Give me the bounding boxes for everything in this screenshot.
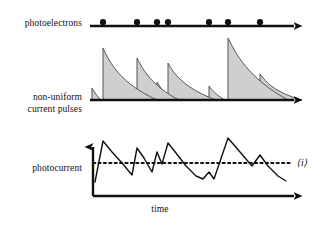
- figure-canvas: [0, 0, 322, 225]
- photoelectron-dot: [165, 19, 171, 25]
- panel-current-pulses: [90, 38, 302, 100]
- photocurrent-waveform: [95, 138, 286, 182]
- current-pulse-shoulder: [92, 88, 101, 100]
- photoelectron-dot: [100, 19, 106, 25]
- figure-photocurrent-shot-noise: photoelectrons non-uniform current pulse…: [0, 0, 322, 225]
- photoelectron-dot: [225, 19, 231, 25]
- panel-photocurrent: [93, 138, 294, 196]
- photoelectron-dot: [257, 19, 263, 25]
- photoelectron-dot: [206, 19, 212, 25]
- photoelectron-dot: [134, 19, 140, 25]
- photoelectron-dot: [154, 19, 160, 25]
- panel-photoelectrons: [90, 19, 294, 26]
